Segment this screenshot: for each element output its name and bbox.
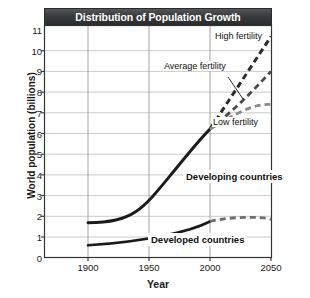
annotation-developing-countries: Developing countries [183, 170, 286, 183]
annotation-low-fertility: Low fertility [212, 117, 259, 127]
annotation-average-fertility: Average fertility [163, 61, 227, 71]
plot-frame [45, 26, 272, 258]
population-growth-chart: Distribution of Population Growth World … [0, 0, 310, 298]
chart-plot-svg [0, 0, 310, 298]
annotation-developed-countries: Developed countries [148, 233, 247, 246]
annotation-high-fertility: High fertility [214, 31, 263, 41]
x-axis-label: Year [44, 278, 272, 290]
